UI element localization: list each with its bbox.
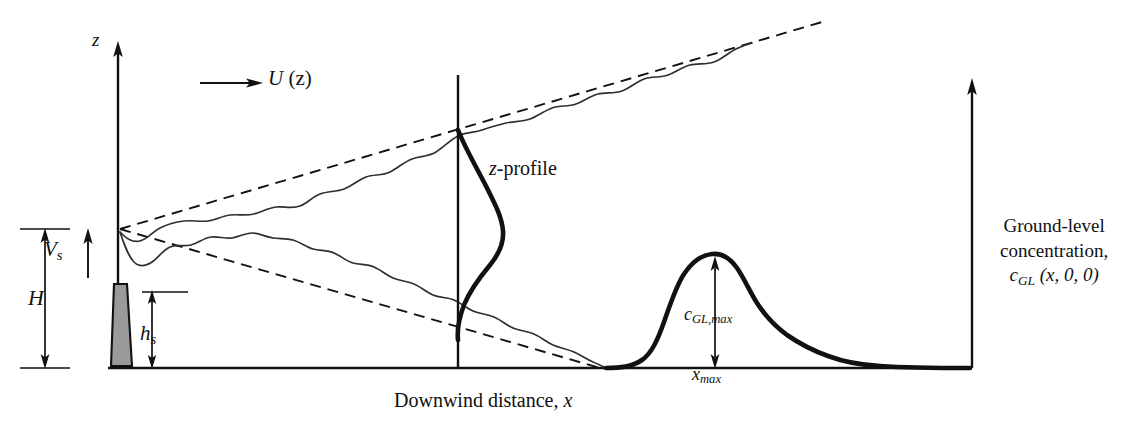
concentration-symbol: c xyxy=(1009,264,1017,285)
max-distance-label: xmax xyxy=(692,365,721,386)
ground-level-concentration-curve xyxy=(606,254,970,368)
x-axis-label-text: Downwind distance, xyxy=(394,389,563,411)
exit-velocity-subscript: s xyxy=(57,247,63,263)
stack xyxy=(111,284,132,366)
effective-height-label: H xyxy=(28,287,44,309)
concentration-axis-line3: cGL (x, 0, 0) xyxy=(1000,263,1108,289)
concentration-subscript: GL xyxy=(1018,273,1035,288)
wind-arrow xyxy=(200,78,263,87)
exit-velocity-symbol: V xyxy=(44,237,57,261)
stack-height-label: hs xyxy=(140,323,156,347)
max-concentration-subscript: GL,max xyxy=(692,312,732,326)
concentration-axis-line1: Ground-level xyxy=(1000,214,1108,239)
concentration-axis-line2: concentration, xyxy=(1000,239,1108,264)
max-concentration-label: cGL,max xyxy=(684,305,732,326)
z-profile-symbol: z xyxy=(489,157,497,179)
z-profile-text: -profile xyxy=(497,157,557,179)
exit-velocity-label: Vs xyxy=(44,239,63,263)
x-axis-label: Downwind distance, x xyxy=(394,390,572,410)
concentration-axis xyxy=(967,78,977,368)
concentration-args: (x, 0, 0) xyxy=(1035,264,1099,285)
wind-speed-symbol: U xyxy=(268,66,283,90)
wind-speed-arg: (z) xyxy=(283,66,312,90)
plume-upper-edge xyxy=(120,43,752,241)
stack-height-symbol: h xyxy=(140,321,151,345)
plume-upper-mean-line xyxy=(120,22,822,229)
wind-speed-label: U (z) xyxy=(268,68,312,89)
figure-canvas: z U (z) Vs H hs z-profile cGL,max xmax D… xyxy=(0,0,1144,435)
plume-lower-mean-line xyxy=(120,229,600,368)
x-axis-label-symbol: x xyxy=(563,389,572,411)
z-profile-label: z-profile xyxy=(489,158,557,178)
exit-velocity-arrow xyxy=(83,228,92,278)
z-axis-label: z xyxy=(92,30,99,49)
max-distance-subscript: max xyxy=(700,372,721,386)
stack-height-subscript: s xyxy=(151,331,157,347)
concentration-axis-label: Ground-level concentration, cGL (x, 0, 0… xyxy=(1000,214,1108,289)
plume-diagram-svg xyxy=(0,0,1144,435)
max-distance-symbol: x xyxy=(692,364,700,384)
max-concentration-symbol: c xyxy=(684,304,692,324)
